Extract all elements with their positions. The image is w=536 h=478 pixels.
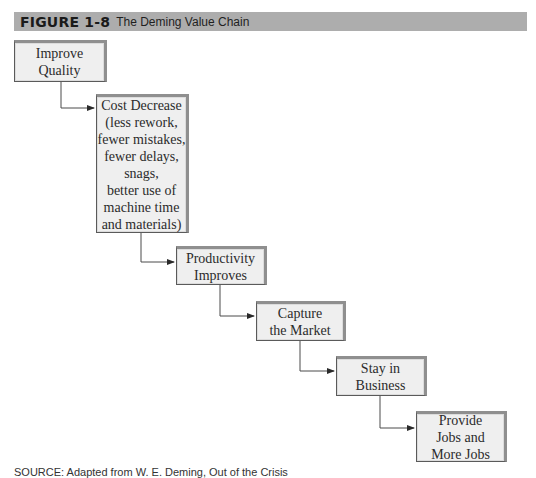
- node-capture-market: Capture the Market: [256, 301, 346, 341]
- node-improve-quality: Improve Quality: [14, 40, 107, 82]
- arrow-market-to-business: [300, 341, 334, 371]
- arrow-cost-to-productivity: [141, 233, 174, 262]
- arrow-productivity-to-market: [220, 285, 254, 316]
- arrow-quality-to-cost: [61, 82, 94, 108]
- source-citation: SOURCE: Adapted from W. E. Deming, Out o…: [14, 466, 288, 478]
- node-stay-in-business: Stay in Business: [336, 356, 427, 396]
- node-cost-decrease: Cost Decrease (less rework, fewer mistak…: [96, 94, 189, 233]
- node-provide-jobs: Provide Jobs and More Jobs: [416, 411, 507, 462]
- node-productivity-improves: Productivity Improves: [176, 246, 267, 285]
- arrow-business-to-jobs: [380, 396, 414, 428]
